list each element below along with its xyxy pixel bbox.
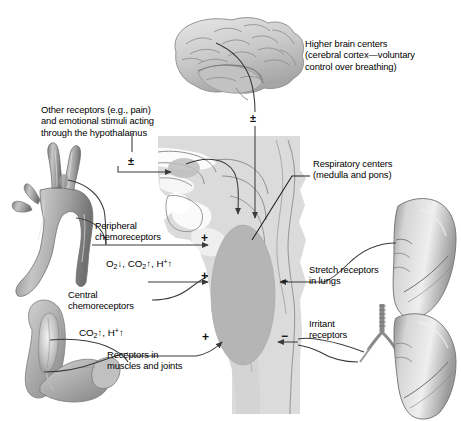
sign-minus-irritant: − bbox=[281, 330, 288, 342]
label-peripheral-chemoreceptors: Peripheral chemoreceptors bbox=[95, 220, 161, 243]
label-higher-brain-centers: Higher brain centers (cerebral cortex—vo… bbox=[305, 38, 415, 72]
sign-minus-stretch: − bbox=[281, 275, 288, 287]
label-stretch-receptors: Stretch receptors in lungs bbox=[309, 264, 379, 287]
label-central-chemoreceptors: Central chemoreceptors bbox=[68, 289, 134, 312]
formula-h-symbol: H bbox=[156, 258, 163, 269]
sign-plus-minus-hypothalamus: ± bbox=[128, 155, 134, 167]
label-irritant-receptors: Irritant receptors bbox=[309, 318, 347, 341]
lung-upper-illustration bbox=[393, 199, 456, 318]
brain-illustration bbox=[175, 18, 304, 100]
label-muscles-joints-receptors: Receptors in muscles and joints bbox=[107, 349, 182, 372]
formula-central-h-symbol: H bbox=[108, 327, 115, 338]
formula-co2-symbol: CO bbox=[128, 258, 143, 269]
sign-plus-muscles: + bbox=[202, 331, 209, 343]
formula-h-arrow: ↑ bbox=[168, 258, 173, 269]
formula-central-co2-symbol: CO bbox=[79, 327, 94, 338]
carotid-aortic-arch-illustration bbox=[12, 143, 93, 297]
formula-peripheral-chemoreceptors: O2↓, CO2↑, H+↑ bbox=[95, 247, 172, 281]
formula-central-chemoreceptors: CO2↑, H+↑ bbox=[68, 316, 124, 350]
respiration-control-figure: Higher brain centers (cerebral cortex—vo… bbox=[0, 0, 461, 421]
label-other-receptors: Other receptors (e.g., pain) and emotion… bbox=[41, 104, 154, 138]
formula-central-h-arrow: ↑ bbox=[119, 327, 124, 338]
sign-plus-central: + bbox=[201, 270, 208, 282]
leader-irritant-lower bbox=[298, 345, 358, 362]
formula-o2-symbol: O bbox=[106, 258, 114, 269]
label-respiratory-centers: Respiratory centers (medulla and pons) bbox=[313, 158, 392, 181]
sign-plus-peripheral: + bbox=[201, 232, 208, 244]
lung-lower-illustration bbox=[360, 304, 456, 419]
sign-plus-minus-brain: ± bbox=[250, 112, 256, 124]
